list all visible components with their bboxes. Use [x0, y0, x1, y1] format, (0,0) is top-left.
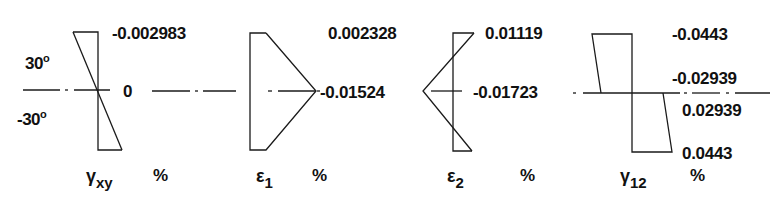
- ply-angle-bottom-value: -30: [17, 110, 40, 129]
- epsilon-1-mid-value: -0.01524: [320, 84, 385, 101]
- epsilon-1-top-value: 0.002328: [328, 25, 397, 42]
- ply-angle-top-label: 30o: [25, 55, 49, 72]
- epsilon-2-mid-value: -0.01723: [473, 84, 538, 101]
- subscript-xy: xy: [96, 174, 113, 191]
- gamma-12-unit: %: [690, 167, 705, 184]
- subscript-2: 2: [456, 174, 464, 191]
- subscript-12: 12: [630, 174, 647, 191]
- gamma-12-axis-label: γ12: [620, 167, 647, 185]
- degree-symbol: o: [43, 52, 49, 64]
- epsilon-1-axis-label: ε1: [256, 167, 273, 185]
- gamma-xy-axis-label: γxy: [86, 167, 113, 185]
- epsilon-2-unit: %: [520, 167, 535, 184]
- epsilon-2-profile: [423, 33, 474, 151]
- epsilon-2-axis-label: ε2: [447, 167, 464, 185]
- degree-symbol: o: [40, 108, 46, 120]
- gamma-xy-top-value: -0.002983: [112, 25, 186, 42]
- gamma-12-profile: [583, 34, 770, 152]
- ply-angle-bottom-label: -30o: [17, 111, 46, 128]
- gamma-symbol: γ: [86, 166, 96, 186]
- epsilon-1-unit: %: [312, 167, 327, 184]
- ply-angle-top-value: 30: [25, 54, 43, 73]
- epsilon-2-top-value: 0.01119: [485, 25, 542, 42]
- gamma-symbol: γ: [620, 166, 630, 186]
- gamma-12-bottom-value: 0.0443: [682, 145, 732, 162]
- gamma-12-mid-lower-value: 0.02939: [682, 102, 741, 119]
- gamma-xy-unit: %: [153, 167, 168, 184]
- gamma-xy-profile: [23, 32, 122, 150]
- epsilon-1-profile: [250, 33, 320, 150]
- epsilon-symbol: ε: [447, 166, 456, 186]
- gamma-xy-mid-value: 0: [123, 83, 132, 100]
- gamma-12-mid-upper-value: -0.02939: [672, 70, 737, 87]
- gamma-12-top-value: -0.0443: [672, 26, 728, 43]
- epsilon-symbol: ε: [256, 166, 265, 186]
- subscript-1: 1: [265, 174, 273, 191]
